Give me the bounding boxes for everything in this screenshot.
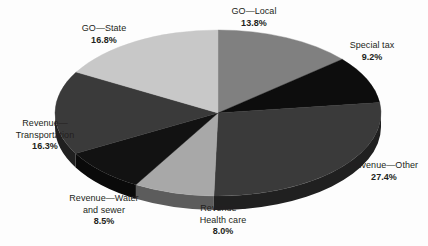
slice-label-revenue-transportation: Revenue— Transportation 16.3%: [1, 118, 89, 153]
slice-label-go-state-name: GO—State: [56, 23, 152, 35]
slice-label-revenue-transportation-name-line1: Revenue—: [1, 118, 89, 130]
slice-label-special-tax: Special tax 9.2%: [330, 40, 414, 63]
slice-label-revenue-health-care: Revenue— Health care 8.0%: [175, 203, 271, 238]
slice-label-revenue-health-name-line2: Health care: [175, 215, 271, 227]
slice-label-go-local-name: GO—Local: [206, 6, 302, 18]
slice-label-go-state: GO—State 16.8%: [56, 23, 152, 46]
slice-label-go-state-value: 16.8%: [56, 35, 152, 47]
slice-label-special-tax-name: Special tax: [330, 40, 414, 52]
slice-label-revenue-other-name: Revenue—Other: [340, 160, 428, 172]
slice-label-special-tax-value: 9.2%: [330, 52, 414, 64]
slice-label-revenue-health-value: 8.0%: [175, 226, 271, 238]
slice-label-revenue-water-and-sewer: Revenue—Water and sewer 8.5%: [52, 193, 156, 228]
slice-label-revenue-health-name-line1: Revenue—: [175, 203, 271, 215]
slice-label-revenue-other-value: 27.4%: [340, 172, 428, 184]
slice-label-go-local: GO—Local 13.8%: [206, 6, 302, 29]
slice-label-go-local-value: 13.8%: [206, 18, 302, 30]
slice-label-revenue-transportation-value: 16.3%: [1, 141, 89, 153]
slice-label-revenue-water-value: 8.5%: [52, 216, 156, 228]
slice-label-revenue-water-name-line1: Revenue—Water: [52, 193, 156, 205]
slice-label-revenue-water-name-line2: and sewer: [52, 205, 156, 217]
pie-chart: GO—Local 13.8% GO—State 16.8% Special ta…: [0, 0, 428, 246]
slice-label-revenue-other: Revenue—Other 27.4%: [340, 160, 428, 183]
slice-label-revenue-transportation-name-line2: Transportation: [1, 130, 89, 142]
